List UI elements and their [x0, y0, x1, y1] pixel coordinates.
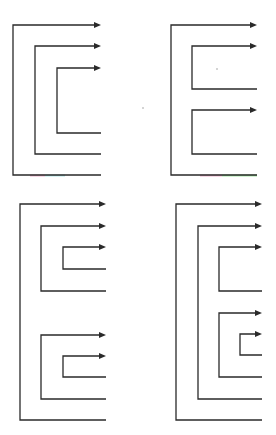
bracket-line — [63, 356, 106, 377]
arrowhead-icon — [99, 201, 106, 207]
bracket — [57, 65, 101, 133]
bracket-line — [35, 46, 101, 154]
bracket — [41, 223, 106, 291]
bracket — [20, 201, 106, 420]
arrowhead-icon — [99, 353, 106, 359]
arrowhead-icon — [250, 22, 257, 28]
bracket — [63, 244, 106, 269]
bracket — [198, 223, 262, 399]
panel-bottom-left — [20, 201, 106, 420]
panel-bottom-right — [176, 201, 262, 420]
arrowhead-icon — [255, 201, 262, 207]
arrowhead-icon — [99, 332, 106, 338]
arrowhead-icon — [255, 223, 262, 229]
bracket — [171, 22, 257, 175]
bracket-line — [219, 247, 262, 291]
arrowhead-icon — [94, 43, 101, 49]
arrowhead-icon — [99, 223, 106, 229]
bracket-line — [192, 46, 257, 89]
bracket — [35, 43, 101, 154]
bracket-line — [20, 204, 106, 420]
bracket — [41, 332, 106, 399]
panel-top-left — [13, 22, 101, 176]
arrowhead-icon — [250, 107, 257, 113]
arrowhead-icon — [94, 65, 101, 71]
bracket — [176, 201, 262, 420]
nested-bracket-diagram — [0, 0, 276, 435]
arrowhead-icon — [255, 310, 262, 316]
arrowhead-icon — [99, 244, 106, 250]
bracket — [192, 43, 257, 89]
arrowhead-icon — [250, 43, 257, 49]
bracket-line — [192, 110, 257, 154]
stray-dot — [142, 107, 143, 108]
bracket-line — [63, 247, 106, 269]
bracket — [63, 353, 106, 377]
stray-dot — [216, 68, 217, 69]
panel-top-right — [142, 22, 257, 176]
diagram-panels — [13, 22, 262, 420]
arrowhead-icon — [255, 244, 262, 250]
bracket — [240, 331, 262, 355]
bracket-line — [171, 25, 257, 175]
bracket-line — [41, 335, 106, 399]
arrowhead-icon — [255, 331, 262, 337]
arrowhead-icon — [94, 22, 101, 28]
bracket-line — [176, 204, 262, 420]
bracket-line — [57, 68, 101, 133]
bracket — [219, 244, 262, 291]
bracket-line — [41, 226, 106, 291]
bracket-line — [240, 334, 262, 355]
bracket — [192, 107, 257, 154]
